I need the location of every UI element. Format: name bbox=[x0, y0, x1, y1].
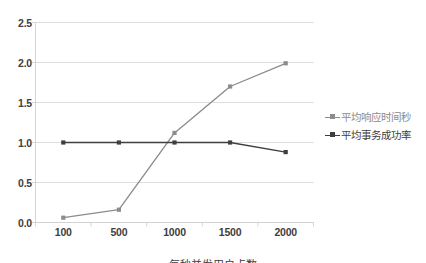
chart-caption: 每秒并发用户点数 bbox=[0, 256, 426, 263]
chart-legend: 平均响应时间秒 平均事务成功率 bbox=[325, 108, 426, 144]
legend-label-series-b: 平均事务成功率 bbox=[341, 129, 411, 141]
chart-container: 0.00.51.01.52.02.5 100500100015002000 平均… bbox=[0, 0, 426, 263]
series-layer bbox=[61, 61, 288, 220]
legend-item-series-b[interactable]: 平均事务成功率 bbox=[325, 126, 426, 144]
legend-label-series-a: 平均响应时间秒 bbox=[341, 111, 411, 123]
legend-marker-series-a-icon bbox=[325, 111, 340, 123]
gridlines bbox=[36, 23, 314, 223]
x-axis-tick-marks bbox=[36, 223, 314, 227]
axis-lines bbox=[32, 23, 314, 223]
legend-marker-series-b-icon bbox=[325, 129, 340, 141]
legend-item-series-a[interactable]: 平均响应时间秒 bbox=[325, 108, 426, 126]
